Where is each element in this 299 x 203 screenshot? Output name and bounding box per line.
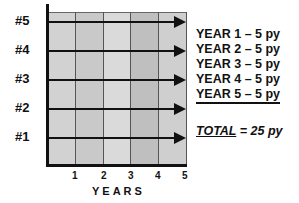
legend-item: YEAR 5 – 5 py: [196, 87, 280, 104]
grid-column: [75, 12, 103, 165]
total-value: = 25 py: [236, 124, 282, 138]
arrowhead-icon: [174, 132, 186, 144]
row-arrow-2: [48, 108, 174, 110]
grid-line: [158, 12, 159, 165]
grid-line: [103, 12, 104, 165]
row-label-3: #3: [15, 71, 29, 86]
arrowhead-icon: [174, 45, 186, 57]
grid-column: [47, 12, 75, 165]
total-line: TOTAL = 25 py: [196, 124, 283, 138]
total-label: TOTAL: [196, 124, 236, 138]
x-tick-5: 5: [182, 170, 188, 181]
grid-column: [130, 12, 158, 165]
grid-line: [186, 12, 187, 165]
row-label-5: #5: [15, 13, 29, 28]
x-tick-4: 4: [155, 170, 161, 181]
row-label-2: #2: [15, 100, 29, 115]
row-label-1: #1: [15, 129, 29, 144]
legend-item: YEAR 3 – 5 py: [196, 57, 280, 72]
grid-area: [47, 12, 186, 165]
arrowhead-icon: [174, 103, 186, 115]
row-label-4: #4: [15, 42, 29, 57]
row-arrow-4: [48, 50, 174, 52]
arrowhead-icon: [174, 16, 186, 28]
legend-item: YEAR 4 – 5 py: [196, 72, 280, 87]
x-axis-title: YEARS: [92, 185, 145, 197]
year-legend: YEAR 1 – 5 py YEAR 2 – 5 py YEAR 3 – 5 p…: [196, 27, 280, 104]
row-arrow-1: [48, 137, 174, 139]
x-axis: [46, 164, 187, 167]
grid-line: [130, 12, 131, 165]
x-tick-1: 1: [72, 170, 78, 181]
x-tick-3: 3: [128, 170, 134, 181]
x-tick-2: 2: [101, 170, 107, 181]
grid-line: [75, 12, 76, 165]
grid-top-line: [47, 12, 186, 13]
arrowhead-icon: [174, 74, 186, 86]
row-arrow-3: [48, 79, 174, 81]
legend-item: YEAR 1 – 5 py: [196, 27, 280, 42]
row-arrow-5: [48, 21, 174, 23]
y-axis: [46, 4, 49, 167]
grid-column: [103, 12, 130, 165]
legend-item: YEAR 2 – 5 py: [196, 42, 280, 57]
